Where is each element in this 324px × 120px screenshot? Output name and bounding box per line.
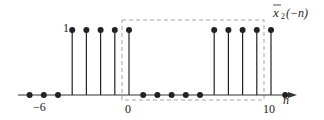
stem-dot (83, 27, 89, 33)
stem-dot (112, 27, 118, 33)
stem-dot (41, 92, 47, 98)
stem-dot (183, 92, 189, 98)
stem-dot (98, 27, 104, 33)
stem-dot (55, 92, 61, 98)
y-tick-1: 1 (63, 21, 69, 35)
x-tick-neg6: −6 (33, 100, 46, 114)
x-tick-10: 10 (263, 102, 275, 116)
axis-arrow-icon (288, 92, 297, 98)
title-main: x (272, 5, 279, 20)
stem-plot: 1 −6 0 10 n x 2 (−n) (0, 0, 324, 120)
plot-title: x 2 (−n) (272, 5, 308, 21)
stem-dot (154, 92, 160, 98)
stem-dot (240, 27, 246, 33)
stem-dot (126, 27, 132, 33)
x-tick-0: 0 (125, 102, 131, 116)
title-sub: 2 (281, 12, 285, 21)
stem-dot (27, 92, 33, 98)
x-axis-label: n (283, 93, 289, 107)
stem-dot (268, 27, 274, 33)
title-arg: (−n) (286, 6, 308, 20)
stem-dot (211, 27, 217, 33)
stem-dot (69, 27, 75, 33)
stem-dot (254, 27, 260, 33)
stem-dot (140, 92, 146, 98)
stem-dot (197, 92, 203, 98)
stem-dot (225, 27, 231, 33)
stems (27, 27, 289, 98)
stem-dot (169, 92, 175, 98)
